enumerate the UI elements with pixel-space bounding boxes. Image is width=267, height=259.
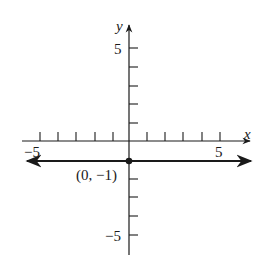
coordinate-plane: y x 5 −5 −5 5 (0, −1) bbox=[0, 0, 267, 259]
x-tick-label-max: 5 bbox=[215, 144, 223, 160]
y-axis-label: y bbox=[114, 18, 123, 34]
y-tick-label-max: 5 bbox=[114, 41, 122, 57]
y-tick-label-min: −5 bbox=[105, 228, 121, 244]
x-ticks bbox=[40, 132, 220, 141]
point-0-neg1 bbox=[126, 158, 133, 165]
point-label: (0, −1) bbox=[76, 167, 117, 184]
x-axis-label: x bbox=[243, 126, 251, 142]
x-tick-label-min: −5 bbox=[24, 144, 40, 160]
